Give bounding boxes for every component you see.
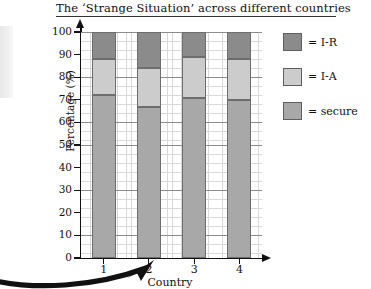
legend-item-ia: = I-A	[283, 68, 358, 86]
bar-country-2	[137, 32, 161, 258]
y-axis-tick-label: 40	[46, 161, 72, 173]
bar-segment-ia	[92, 59, 116, 95]
y-axis-arrowhead	[76, 19, 84, 28]
legend-label-secure: = secure	[308, 105, 358, 118]
chart-title: The ‘Strange Situation’ across different…	[56, 1, 336, 17]
bar-segment-ia	[182, 57, 206, 98]
bar-segment-secure	[182, 98, 206, 258]
legend-swatch-secure-icon	[283, 102, 302, 120]
plot-area	[81, 32, 262, 258]
bar-segment-secure	[137, 107, 161, 258]
chart-legend: = I-R = I-A = secure	[283, 33, 358, 137]
legend-item-secure: = secure	[283, 102, 358, 120]
bar-country-3	[182, 32, 206, 258]
y-axis-tick-label: 10	[46, 228, 72, 240]
bar-segment-ir	[92, 32, 116, 59]
y-axis-title: Percentage (%)	[64, 51, 76, 171]
y-axis-tick-label: 60	[46, 115, 72, 127]
y-axis-tick-label: 70	[46, 93, 72, 105]
bar-country-1	[92, 32, 116, 258]
y-axis-tick-label: 20	[46, 206, 72, 218]
bar-group	[81, 32, 262, 258]
legend-label-ir: = I-R	[308, 36, 337, 49]
bar-country-4	[227, 32, 251, 258]
bar-segment-secure	[92, 95, 116, 258]
y-axis-tick-label: 100	[46, 25, 72, 37]
legend-swatch-ir-icon	[283, 33, 302, 51]
y-axis-tick-label: 90	[46, 48, 72, 60]
legend-label-ia: = I-A	[308, 70, 337, 83]
bar-segment-secure	[227, 100, 251, 258]
bar-segment-ir	[182, 32, 206, 57]
y-axis-tick-label: 80	[46, 70, 72, 82]
bar-segment-ia	[227, 59, 251, 100]
legend-item-ir: = I-R	[283, 33, 358, 51]
x-axis-tick-label: 4	[229, 263, 249, 276]
legend-swatch-ia-icon	[283, 68, 302, 86]
bar-segment-ir	[137, 32, 161, 68]
x-axis-arrowhead	[262, 254, 271, 262]
bar-segment-ir	[227, 32, 251, 59]
chart-page: The ‘Strange Situation’ across different…	[0, 0, 371, 289]
annotation-curved-arrow-icon	[0, 248, 204, 289]
scan-edge-artifact	[0, 26, 13, 98]
bar-segment-ia	[137, 68, 161, 106]
y-axis-tick-label: 50	[46, 138, 72, 150]
y-axis-tick-label: 30	[46, 183, 72, 195]
